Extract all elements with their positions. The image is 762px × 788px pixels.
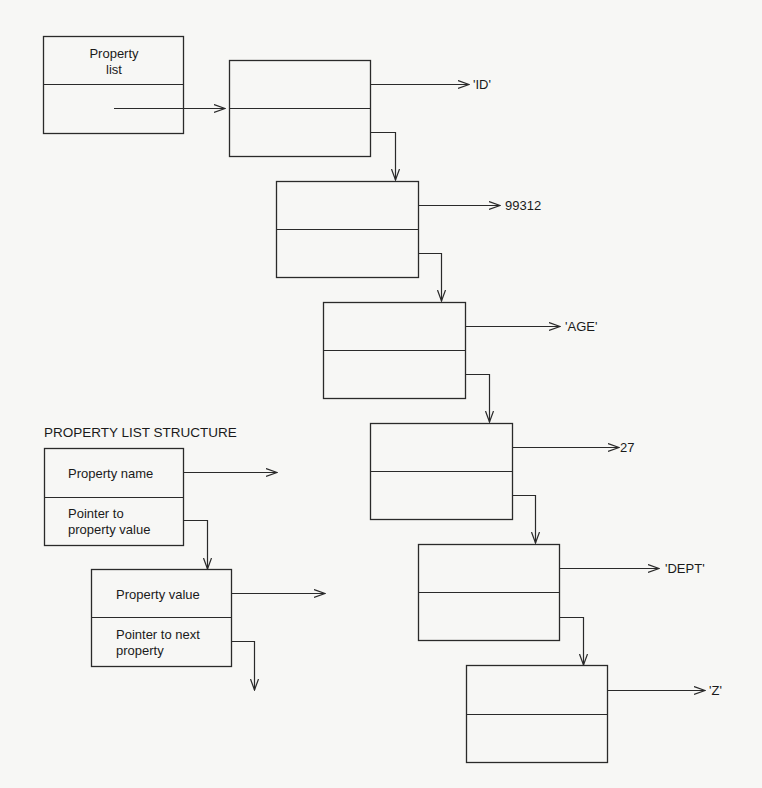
next-arrow [466, 375, 490, 423]
node-3-value: 'AGE' [565, 319, 597, 334]
node-1-value: 'ID' [473, 77, 491, 92]
node-6-value: 'Z' [709, 683, 722, 698]
node-5-value: 'DEPT' [665, 561, 705, 576]
legend-pointer-to-line1: Pointer to [68, 506, 124, 521]
property-list-label-line1: Property [44, 46, 184, 61]
node-4 [371, 424, 620, 544]
next-arrow [419, 254, 442, 302]
diagram-canvas [0, 0, 762, 788]
node-2-value: 99312 [505, 198, 541, 213]
node-6 [467, 666, 706, 763]
property-list-label-line2: list [44, 62, 184, 77]
node-1 [230, 61, 470, 181]
legend-property-name: Property name [68, 466, 153, 481]
node-2 [277, 182, 501, 302]
legend-value-pointer-arrow [184, 521, 208, 570]
legend-title: PROPERTY LIST STRUCTURE [44, 425, 237, 440]
legend-pointer-to-line2: property value [68, 522, 150, 537]
legend-pointer-next-line2: property [116, 643, 164, 658]
next-arrow [560, 618, 584, 666]
next-arrow [371, 133, 396, 181]
legend-pointer-next-line1: Pointer to next [116, 627, 200, 642]
node-5 [419, 545, 660, 666]
node-4-value: 27 [620, 440, 634, 455]
legend-property-value: Property value [116, 587, 200, 602]
node-3 [324, 303, 561, 423]
next-arrow [513, 496, 536, 544]
legend-next-arrow [232, 642, 255, 691]
